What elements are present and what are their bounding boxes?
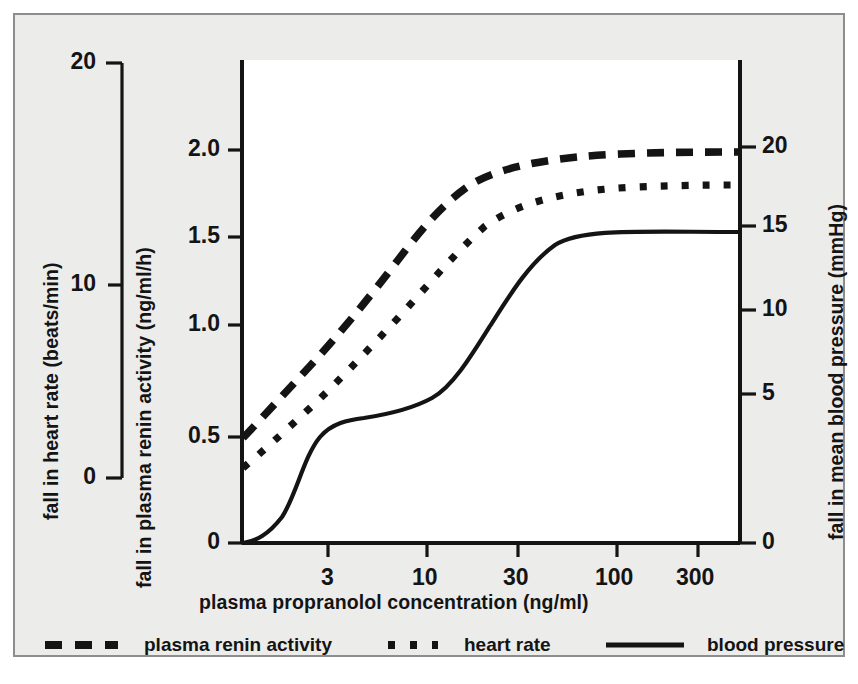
heart-rate-scale-bracket bbox=[106, 63, 122, 478]
x-tick-3: 3 bbox=[321, 566, 334, 589]
x-axis-title: plasma propranolol concentration (ng/ml) bbox=[199, 593, 589, 613]
renin-tick-0: 0 bbox=[162, 530, 220, 553]
renin-tick-1-5: 1.5 bbox=[162, 224, 220, 247]
x-tick-10: 10 bbox=[412, 566, 438, 589]
plot-area-background bbox=[242, 60, 740, 543]
renin-axis-title: fall in plasma renin activity (ng/ml/h) bbox=[135, 247, 155, 588]
bp-tick-15: 15 bbox=[762, 213, 788, 236]
renin-tick-2-0: 2.0 bbox=[162, 137, 220, 160]
blood-pressure-axis-title: fall in mean blood pressure (mmHg) bbox=[827, 204, 847, 540]
legend-item-blood-pressure: blood pressure bbox=[707, 635, 844, 654]
bp-tick-20: 20 bbox=[762, 134, 788, 157]
x-tick-100: 100 bbox=[595, 566, 633, 589]
heart-rate-tick-20: 20 bbox=[48, 50, 96, 73]
bp-tick-5: 5 bbox=[762, 381, 775, 404]
legend-item-plasma-renin-activity: plasma renin activity bbox=[144, 635, 332, 654]
renin-tick-1-0: 1.0 bbox=[162, 312, 220, 335]
x-tick-300: 300 bbox=[676, 566, 714, 589]
heart-rate-axis-title: fall in heart rate (beats/min) bbox=[42, 262, 62, 520]
legend-item-heart-rate: heart rate bbox=[464, 635, 551, 654]
renin-tick-0-5: 0.5 bbox=[162, 424, 220, 447]
x-tick-30: 30 bbox=[503, 566, 529, 589]
bottom-axis-ticks bbox=[328, 543, 698, 557]
figure-page: 20 10 0 fall in heart rate (beats/min) 2… bbox=[0, 0, 858, 684]
bp-tick-0: 0 bbox=[762, 530, 775, 553]
bp-tick-10: 10 bbox=[762, 297, 788, 320]
left-axis-ticks bbox=[228, 150, 242, 543]
right-axis-ticks bbox=[740, 147, 756, 543]
